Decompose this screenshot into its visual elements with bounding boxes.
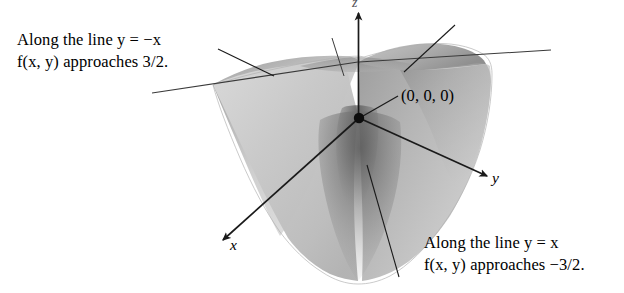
annotation-right-line2: f(x, y) approaches −3/2.	[424, 254, 585, 276]
origin-point	[354, 113, 364, 123]
annotation-line-y-equals-x: Along the line y = x f(x, y) approaches …	[424, 232, 585, 276]
annotation-right-line1: Along the line y = x	[424, 232, 585, 254]
figure-canvas: Along the line y = −x f(x, y) approaches…	[0, 0, 624, 293]
annotation-line-y-equals-negative-x: Along the line y = −x f(x, y) approaches…	[17, 29, 168, 73]
origin-coordinate-label: (0, 0, 0)	[401, 85, 454, 107]
y-axis-label: y	[492, 169, 499, 187]
x-axis-label: x	[230, 236, 237, 254]
annotation-left-line2: f(x, y) approaches 3/2.	[17, 51, 168, 73]
annotation-left-line1: Along the line y = −x	[17, 29, 168, 51]
z-axis-label: z	[352, 0, 357, 11]
